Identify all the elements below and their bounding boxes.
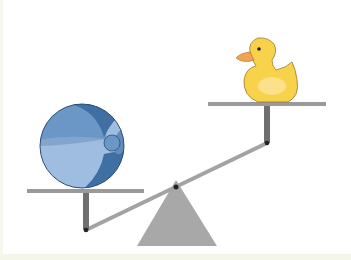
right-joint-icon xyxy=(265,141,270,146)
beach-ball-icon xyxy=(40,90,124,192)
rubber-duck-icon xyxy=(236,38,298,102)
pivot-icon xyxy=(174,185,179,190)
left-post xyxy=(83,191,89,230)
right-platform xyxy=(208,102,326,106)
left-joint-icon xyxy=(84,228,89,233)
left-platform xyxy=(27,189,144,193)
seesaw-illustration xyxy=(0,0,351,260)
fulcrum xyxy=(137,180,217,246)
right-post xyxy=(264,104,270,143)
